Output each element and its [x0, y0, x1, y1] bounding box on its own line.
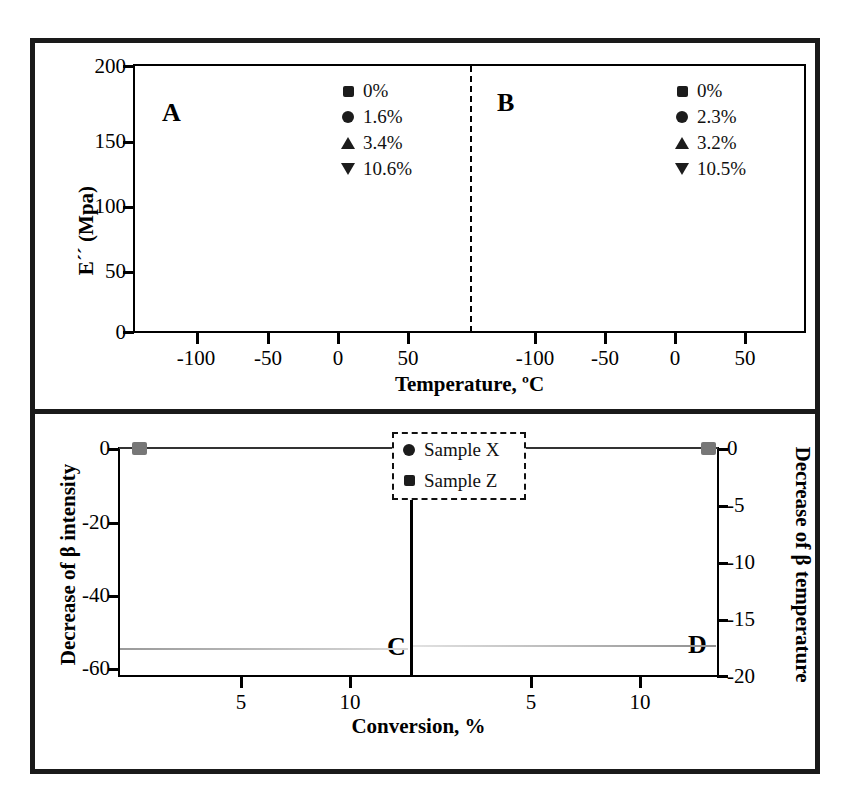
bottom-chart-y-tick-mark-right — [717, 505, 728, 508]
bottom-chart-x-tick-left-5: 5 — [211, 690, 271, 715]
bottom-chart-y-tick-mark — [108, 668, 119, 671]
top-chart-x-tick-mark — [604, 333, 607, 344]
top-chart-x-tick-mark — [534, 333, 537, 344]
bottom-chart-y-tick-mark — [108, 595, 119, 598]
circle-marker-icon — [337, 111, 359, 123]
square-marker-icon — [671, 86, 693, 97]
legend-label: Sample Z — [424, 470, 497, 492]
bottom-chart-x-tick-right-5: 5 — [501, 690, 561, 715]
triangle-down-marker-icon — [671, 163, 693, 175]
panel-d-sample-x-line — [413, 645, 716, 647]
top-chart-x-axis-title: Temperature, ºC — [133, 372, 806, 397]
panel-c-sample-z-marker — [132, 442, 147, 455]
top-chart-x-tick-left-50: 50 — [378, 346, 438, 371]
top-chart-x-tick-mark — [337, 333, 340, 344]
legend-label: 3.4% — [363, 132, 403, 154]
top-chart-y-tick-100: 100 — [74, 194, 126, 219]
legend-label: 3.2% — [697, 132, 737, 154]
legend-label: 2.3% — [697, 106, 737, 128]
panel-a-legend: 0% 1.6% 3.4% 10.6% — [337, 78, 412, 182]
figure-panel-divider — [30, 409, 820, 414]
top-chart-x-tick-mark — [744, 333, 747, 344]
bottom-chart-y-tick-right-neg15: -15 — [727, 607, 779, 632]
panel-c-sample-x-line — [120, 648, 408, 650]
legend-item: Sample Z — [394, 465, 524, 496]
legend-label: 10.6% — [363, 158, 412, 180]
bottom-chart-y-tick-left-neg60: -60 — [58, 656, 110, 681]
top-chart-y-tick-mark — [123, 271, 134, 274]
bottom-chart-y-tick-right-0: 0 — [727, 436, 779, 461]
top-chart-x-tick-left-neg100: -100 — [166, 346, 226, 371]
bottom-chart-y-tick-right-neg20: -20 — [727, 664, 779, 689]
top-chart-x-tick-right-neg100: -100 — [505, 346, 565, 371]
bottom-chart-x-tick-mark — [639, 677, 642, 688]
legend-item: 10.6% — [337, 156, 412, 182]
top-chart-x-tick-mark — [196, 333, 199, 344]
top-chart-y-tick-mark — [123, 141, 134, 144]
square-marker-icon — [337, 86, 359, 97]
top-chart-x-tick-mark — [674, 333, 677, 344]
panel-d-sample-z-marker — [701, 442, 716, 455]
bottom-chart-x-tick-right-10: 10 — [610, 690, 670, 715]
legend-label: 0% — [363, 80, 388, 102]
legend-label: 10.5% — [697, 158, 746, 180]
bottom-chart-y-tick-left-neg20: -20 — [58, 510, 110, 535]
legend-label: 0% — [697, 80, 722, 102]
top-chart-x-tick-right-0: 0 — [645, 346, 705, 371]
bottom-chart-y-tick-mark-right — [717, 619, 728, 622]
bottom-chart-x-axis-title: Conversion, % — [118, 714, 719, 739]
triangle-down-marker-icon — [337, 163, 359, 175]
triangle-up-marker-icon — [337, 137, 359, 149]
bottom-chart-y-tick-mark-right — [717, 562, 728, 565]
panel-letter-c: C — [387, 632, 406, 662]
bottom-chart-y-axis-title-right: Decrease of β temperature — [790, 435, 815, 695]
legend-item: 0% — [671, 78, 746, 104]
top-chart-x-tick-right-neg50: -50 — [575, 346, 635, 371]
panel-c-sample-z-line — [119, 447, 409, 449]
bottom-chart-y-tick-mark-right — [717, 448, 728, 451]
triangle-up-marker-icon — [671, 137, 693, 149]
bottom-chart-x-tick-mark — [349, 677, 352, 688]
top-chart-y-tick-mark — [123, 331, 134, 334]
bottom-chart-y-tick-right-neg10: -10 — [727, 550, 779, 575]
top-chart-y-axis-title: E´´ (Mpa) — [74, 131, 99, 331]
bottom-chart-x-tick-left-10: 10 — [320, 690, 380, 715]
top-chart-y-tick-50: 50 — [74, 259, 126, 284]
legend-label: Sample X — [424, 439, 499, 461]
bottom-chart-x-tick-mark — [530, 677, 533, 688]
legend-item: Sample X — [394, 434, 524, 465]
legend-item: 0% — [337, 78, 412, 104]
bottom-chart-y-tick-mark — [108, 448, 119, 451]
bottom-chart-x-tick-mark — [240, 677, 243, 688]
legend-item: 2.3% — [671, 104, 746, 130]
bottom-chart-legend: Sample X Sample Z — [392, 432, 526, 500]
circle-marker-icon — [398, 444, 420, 456]
legend-item: 10.5% — [671, 156, 746, 182]
panel-b-legend: 0% 2.3% 3.2% 10.5% — [671, 78, 746, 182]
panel-letter-b: B — [497, 88, 514, 118]
circle-marker-icon — [671, 111, 693, 123]
top-chart-x-tick-left-neg50: -50 — [238, 346, 298, 371]
top-chart-x-tick-mark — [267, 333, 270, 344]
legend-label: 1.6% — [363, 106, 403, 128]
top-chart-x-tick-left-0: 0 — [308, 346, 368, 371]
panel-letter-a: A — [162, 98, 181, 128]
top-chart-y-tick-200: 200 — [74, 54, 126, 79]
bottom-chart-y-tick-mark — [108, 522, 119, 525]
legend-item: 1.6% — [337, 104, 412, 130]
figure-page: E´´ (Mpa) 200 150 100 50 0 -100 -50 0 50… — [0, 0, 854, 793]
legend-item: 3.4% — [337, 130, 412, 156]
top-chart-center-divider — [470, 66, 472, 332]
bottom-chart-y-tick-mark-right — [717, 675, 728, 678]
top-chart-x-tick-mark — [407, 333, 410, 344]
top-chart-x-tick-right-50: 50 — [715, 346, 775, 371]
bottom-chart-y-tick-left-0: 0 — [58, 436, 110, 461]
square-marker-icon — [398, 475, 420, 486]
top-chart-y-tick-0: 0 — [74, 320, 126, 345]
top-chart-y-tick-mark — [123, 206, 134, 209]
legend-item: 3.2% — [671, 130, 746, 156]
top-chart-y-tick-150: 150 — [74, 129, 126, 154]
top-chart-y-tick-mark — [123, 65, 134, 68]
bottom-chart-y-tick-left-neg40: -40 — [58, 583, 110, 608]
bottom-chart-y-tick-right-neg5: -5 — [727, 493, 779, 518]
